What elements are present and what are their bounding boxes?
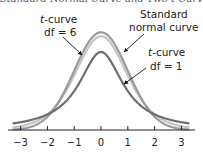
label-normal-line1: Standard xyxy=(140,8,188,20)
x-tick-label: −1 xyxy=(67,137,82,148)
arrow-t6 xyxy=(63,37,82,55)
label-t1: t-curve xyxy=(148,46,185,58)
x-tick-label: 1 xyxy=(125,137,131,148)
arrow-normal xyxy=(124,34,144,52)
x-tick-label: −2 xyxy=(40,137,55,148)
x-tick-label: −3 xyxy=(13,137,28,148)
label-t1-df: df = 1 xyxy=(150,60,183,72)
x-tick-label: 2 xyxy=(151,137,157,148)
x-tick-label: 3 xyxy=(178,137,184,148)
label-t6-df: df = 6 xyxy=(44,26,77,38)
label-t6: t-curve xyxy=(40,13,77,25)
label-normal-line2: normal curve xyxy=(129,21,199,33)
chart-canvas: −3−2−10123 t-curve df = 6 Standard norma… xyxy=(0,0,203,152)
x-axis-ticks: −3−2−10123 xyxy=(13,126,184,148)
x-tick-label: 0 xyxy=(98,137,104,148)
